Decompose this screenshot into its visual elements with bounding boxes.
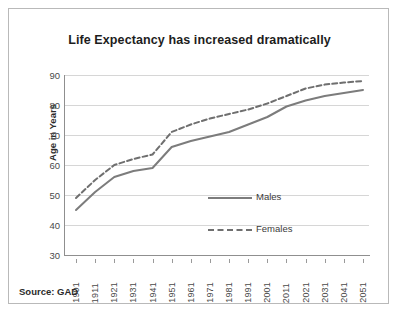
y-tick-label: 80 [38, 100, 60, 111]
x-tick-mark [363, 259, 364, 263]
x-tick-mark [306, 259, 307, 263]
y-tick-label: 40 [38, 220, 60, 231]
x-tick-label: 2011 [281, 283, 291, 303]
y-axis-tick-labels: 30405060708090 [34, 75, 60, 256]
x-tick-mark [95, 259, 96, 263]
x-tick-label: 1971 [205, 282, 215, 303]
x-tick-mark [172, 259, 173, 263]
x-tick-label: 2001 [262, 282, 272, 303]
x-tick-label: 1911 [90, 283, 100, 303]
x-tick-mark [267, 259, 268, 263]
legend-label-females: Females [256, 223, 292, 234]
x-tick-label: 1941 [148, 282, 158, 303]
x-tick-label: 2021 [301, 282, 311, 303]
x-tick-mark [210, 259, 211, 263]
x-tick-label: 1921 [109, 282, 119, 303]
x-tick-mark [344, 259, 345, 263]
x-tick-mark [153, 259, 154, 263]
x-tick-label: 2051 [358, 282, 368, 303]
source-note: Source: GAD [19, 286, 78, 297]
x-tick-mark [76, 259, 77, 263]
x-tick-mark [114, 259, 115, 263]
y-tick-label: 30 [38, 250, 60, 261]
x-tick-label: 1961 [186, 282, 196, 303]
x-tick-mark [248, 259, 249, 263]
y-tick-label: 50 [38, 190, 60, 201]
legend-swatch-solid-icon [208, 197, 252, 199]
chart-title: Life Expectancy has increased dramatical… [9, 33, 390, 47]
x-axis-tick-labels: 1901191119211931194119511961197119811991… [64, 259, 374, 303]
chart-legend: Males Females [204, 191, 324, 237]
x-tick-mark [133, 259, 134, 263]
x-tick-mark [229, 259, 230, 263]
legend-swatch-dashed-icon [208, 229, 252, 231]
x-tick-label: 2041 [339, 282, 349, 303]
series-line-females [76, 81, 363, 198]
x-tick-label: 1951 [167, 282, 177, 303]
x-tick-label: 1991 [243, 282, 253, 303]
x-tick-mark [286, 259, 287, 263]
legend-label-males: Males [256, 191, 281, 202]
y-tick-label: 90 [38, 70, 60, 81]
chart-frame: Life Expectancy has increased dramatical… [8, 8, 389, 304]
x-tick-mark [191, 259, 192, 263]
y-tick-label: 70 [38, 130, 60, 141]
x-tick-mark [325, 259, 326, 263]
y-tick-label: 60 [38, 160, 60, 171]
x-tick-label: 1931 [128, 282, 138, 303]
x-tick-label: 2031 [320, 282, 330, 303]
x-tick-label: 1981 [224, 282, 234, 303]
